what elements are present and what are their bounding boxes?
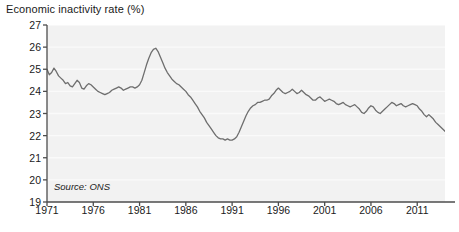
y-axis-tick-label: 21 — [29, 152, 41, 164]
x-axis-tick-label: 1976 — [82, 204, 105, 216]
y-axis-tick-label: 23 — [29, 108, 41, 120]
x-axis-tick-labels: 197119761981198619911996200120062011 — [47, 204, 445, 220]
y-axis-tick-label: 24 — [29, 85, 41, 97]
x-axis-tick-label: 2001 — [313, 204, 336, 216]
source-annotation: Source: ONS — [54, 181, 110, 192]
plot-area — [47, 25, 445, 202]
y-axis-tick-label: 22 — [29, 130, 41, 142]
chart-title: Economic inactivity rate (%) — [6, 3, 145, 15]
gridlines — [47, 25, 445, 180]
x-axis-tick-label: 2006 — [359, 204, 382, 216]
x-axis-tick-label: 1991 — [220, 204, 243, 216]
y-axis-tick-label: 27 — [29, 19, 41, 31]
x-axis-tick-label: 1996 — [267, 204, 290, 216]
x-axis-tick-label: 1981 — [128, 204, 151, 216]
line-chart-svg — [47, 25, 445, 202]
y-axis-tick-label: 26 — [29, 41, 41, 53]
x-axis-tick-label: 1986 — [174, 204, 197, 216]
x-axis-tick-label: 1971 — [35, 204, 58, 216]
chart-figure: Economic inactivity rate (%) 19202122232… — [0, 0, 459, 232]
y-axis-tick-labels: 192021222324252627 — [10, 25, 41, 202]
x-axis-tick-label: 2011 — [406, 204, 429, 216]
y-axis-tick-label: 20 — [29, 174, 41, 186]
data-series-line — [47, 48, 445, 140]
y-axis-tick-label: 25 — [29, 63, 41, 75]
